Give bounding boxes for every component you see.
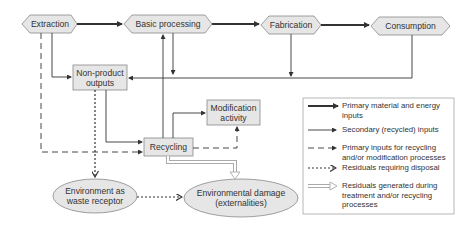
node-recycling: Recycling bbox=[144, 138, 193, 156]
node-consumption: Consumption bbox=[373, 17, 448, 35]
legend-primary-inputs: Primary material and energy inputs bbox=[342, 101, 450, 120]
node-modification-activity: Modification activity bbox=[207, 100, 260, 125]
node-extraction: Extraction bbox=[24, 15, 76, 33]
diagram: Extraction Basic processing Fabrication … bbox=[0, 0, 467, 228]
node-fabrication: Fabrication bbox=[263, 16, 319, 34]
legend-residuals-treatment: Residuals generated during treatment and… bbox=[342, 181, 442, 210]
node-environmental-damage: Environmental damage (externalities) bbox=[192, 183, 290, 213]
node-basic-processing: Basic processing bbox=[126, 15, 210, 33]
legend-residuals-disposal: Residuals requiring disposal bbox=[342, 163, 452, 173]
node-non-product-outputs: Non-product outputs bbox=[73, 65, 127, 90]
legend-secondary-inputs: Secondary (recycled) inputs bbox=[342, 125, 452, 135]
node-environment-waste-receptor: Environment as waste receptor bbox=[60, 183, 130, 209]
legend-primary-recycling-inputs: Primary inputs for recycling and/or modi… bbox=[342, 143, 452, 162]
